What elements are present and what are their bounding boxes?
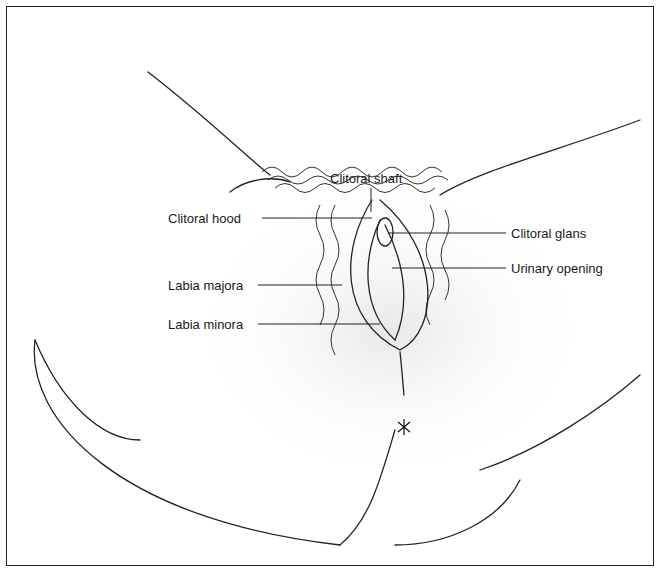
label-clitoral-shaft: Clitoral shaft xyxy=(330,172,402,185)
label-clitoral-glans: Clitoral glans xyxy=(511,227,586,240)
label-labia-minora: Labia minora xyxy=(168,318,243,331)
label-clitoral-hood: Clitoral hood xyxy=(168,212,241,225)
label-labia-majora: Labia majora xyxy=(168,279,243,292)
anatomy-line-art xyxy=(0,0,662,574)
label-urinary-opening: Urinary opening xyxy=(511,262,603,275)
